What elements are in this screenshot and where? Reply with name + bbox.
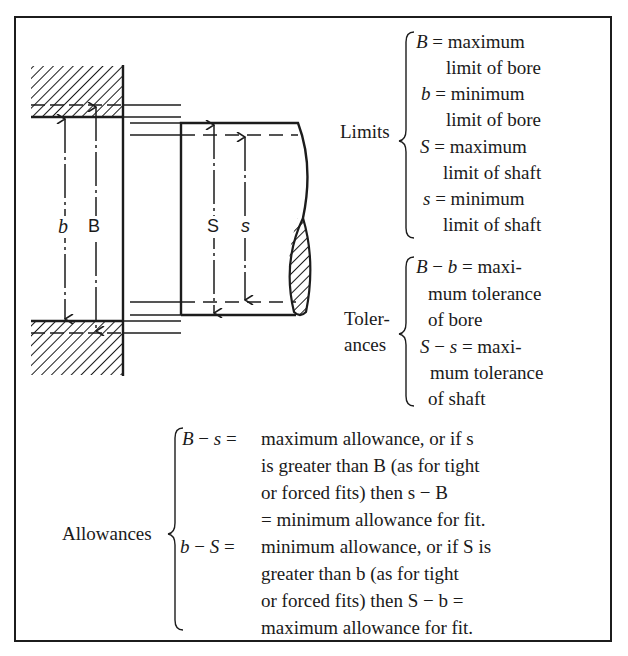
equals-sign: = [226,428,237,449]
diagram-label-b: b [58,213,68,240]
tolerance-definition-cont: mum tolerance [428,280,541,307]
allowances-label: Allowances [62,520,152,547]
limits-definition: = maximum [434,136,527,157]
limits-definition: = minimum [435,188,524,209]
limits-definition-cont: limit of shaft [443,159,541,186]
tolerance-definition-cont: of bore [428,306,482,333]
limits-definition-cont: limit of shaft [443,211,541,238]
tolerances-label-line1: Toler- [344,305,390,332]
allowance-definition-line: greater than b (as for tight [261,560,459,587]
tolerance-definition: = maxi- [462,336,522,357]
minus-operator: − [198,428,209,449]
tolerance-definition-cont: mum tolerance [430,359,543,386]
tolerance-symbol: B [416,256,428,277]
limits-symbol: b [421,83,431,104]
shaft-break-symbol [280,215,320,320]
allowance-definition-line: = minimum allowance for fit. [261,506,485,533]
tolerance-symbol: S [420,336,430,357]
tolerances-brace [399,257,414,406]
allowance-definition-line: maximum allowance, or if s [261,425,474,452]
bore-top-section [31,66,123,117]
allowance-definition-line: or forced fits) then S − b = [261,587,463,614]
allowance-definition-line: is greater than B (as for tight [261,452,479,479]
limits-symbol: B [416,31,428,52]
minus-operator: − [194,536,205,557]
limits-definition-cont: limit of bore [446,54,541,81]
allowance-definition-line: minimum allowance, or if S is [261,533,491,560]
limits-definition: = minimum [435,83,524,104]
limits-symbol: S [420,136,430,157]
limits-brace [399,32,414,238]
allowances-brace [168,428,183,630]
equals-sign: = [224,536,235,557]
tolerance-definition-cont: of shaft [428,385,486,412]
bore-extension-lines [123,105,181,333]
allowance-definition-line: or forced fits) then s − B [261,479,448,506]
diagram-label-s: s [241,213,250,240]
allowance-symbol: B [182,428,194,449]
tolerances-label-line2: ances [344,331,386,358]
limits-symbol: s [423,188,430,209]
allowance-definition-line: maximum allowance for fit. [261,614,473,641]
tolerance-definition: = maxi- [462,256,522,277]
diagram-label-S: S [207,213,219,240]
allowance-symbol: s [214,428,221,449]
shaft-extension-lines [130,123,181,315]
limits-definition: = maximum [432,31,525,52]
bore-bottom-section [31,321,123,375]
allowance-symbol: S [210,536,220,557]
minus-operator: − [432,256,443,277]
limits-label: Limits [340,118,390,145]
tolerance-symbol: s [450,336,457,357]
limits-definition-cont: limit of bore [446,106,541,133]
allowance-symbol: b [180,536,190,557]
tolerance-symbol: b [448,256,458,277]
minus-operator: − [434,336,445,357]
diagram-label-B: B [88,213,100,240]
